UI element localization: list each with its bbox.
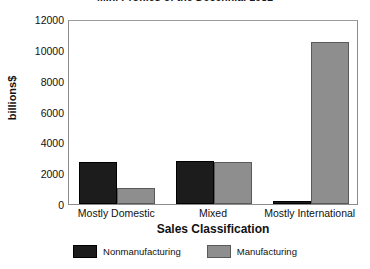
legend-swatch-icon [207, 245, 231, 258]
y-tick-label: 6000 [2, 107, 64, 119]
chart-title: Mini Profiles of the Decennial 1982 [0, 0, 370, 3]
x-tick-label: Mostly Domestic [78, 207, 155, 219]
bar [117, 188, 155, 204]
bar [273, 201, 311, 204]
y-tick-label: 2000 [2, 168, 64, 180]
chart-legend: NonmanufacturingManufacturing [0, 245, 370, 258]
legend-label: Nonmanufacturing [103, 246, 181, 257]
legend-swatch-icon [73, 245, 97, 258]
y-tick-label: 10000 [2, 45, 64, 57]
bar [214, 162, 252, 204]
x-tick-label: Mixed [199, 207, 227, 219]
legend-entry: Nonmanufacturing [73, 245, 181, 258]
bar [176, 161, 214, 204]
plot-frame [68, 20, 358, 205]
y-tick-label: 0 [2, 199, 64, 211]
y-tick-label: 4000 [2, 137, 64, 149]
x-tick-label: Mostly International [264, 207, 355, 219]
legend-label: Manufacturing [237, 246, 297, 257]
bar [79, 162, 117, 204]
bar-group [176, 21, 252, 204]
y-axis-tick-labels: 020004000600080001000012000 [0, 20, 64, 205]
bar-group [79, 21, 155, 204]
x-axis-label: Sales Classification [68, 222, 358, 236]
chart-figure: Mini Profiles of the Decennial 1982 bill… [0, 0, 370, 269]
bar-group [273, 21, 349, 204]
bar [311, 42, 349, 204]
y-tick-label: 12000 [2, 14, 64, 26]
legend-entry: Manufacturing [207, 245, 297, 258]
y-tick-label: 8000 [2, 76, 64, 88]
x-axis-tick-labels: Mostly DomesticMixedMostly International [68, 207, 358, 223]
plot-area [69, 21, 357, 204]
